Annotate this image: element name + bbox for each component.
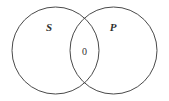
set-label-p: P bbox=[110, 21, 117, 33]
set-label-s: S bbox=[46, 21, 52, 33]
venn-diagram-canvas: S P 0 bbox=[0, 0, 169, 101]
venn-diagram-figure: S P 0 bbox=[0, 0, 169, 101]
intersection-region-label: 0 bbox=[82, 46, 87, 57]
